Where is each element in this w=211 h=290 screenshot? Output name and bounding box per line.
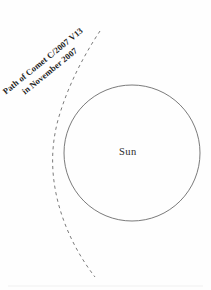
diagram-canvas — [0, 0, 211, 290]
sun-label: Sun — [119, 146, 137, 157]
comet-path-figure: Sun Path of Comet C/2007 V13 in November… — [0, 0, 211, 290]
